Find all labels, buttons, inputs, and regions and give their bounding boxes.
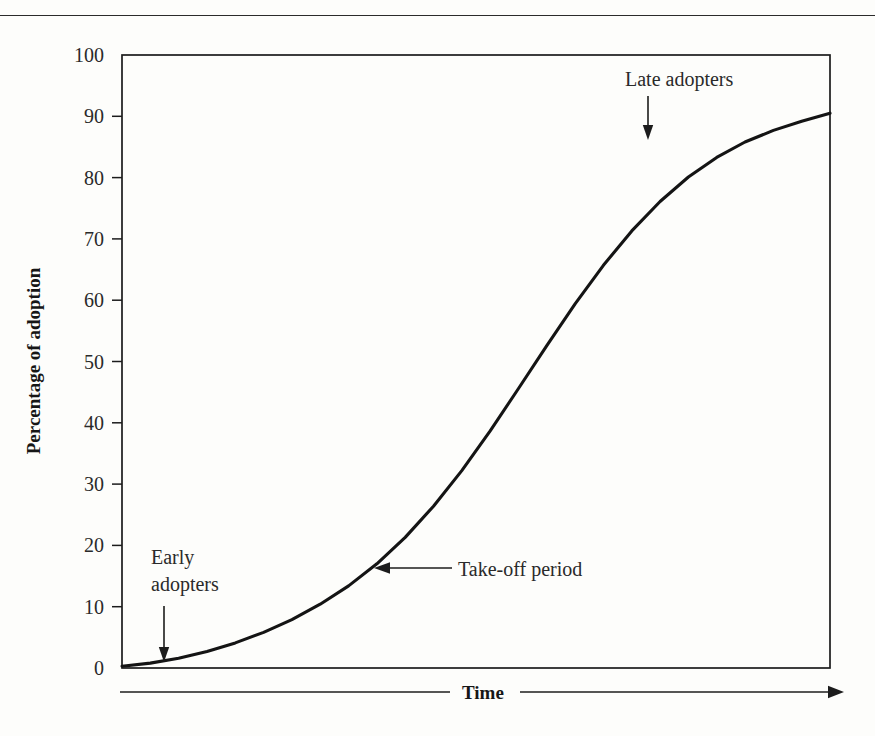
y-tick-label-90: 90 [84,105,104,127]
chart-figure: 100 90 80 70 60 50 40 30 20 10 0 Percent… [0,0,875,736]
anno-take-off-label: Take-off period [458,558,582,581]
time-arrow-head [828,686,844,698]
y-axis-tick-labels: 100 90 80 70 60 50 40 30 20 10 0 [74,44,104,679]
y-axis-title: Percentage of adoption [23,267,44,454]
adoption-s-curve-chart: 100 90 80 70 60 50 40 30 20 10 0 Percent… [0,0,875,736]
x-axis-title: Time [462,682,504,703]
y-tick-label-30: 30 [84,473,104,495]
y-axis-ticks [112,116,122,606]
y-tick-label-40: 40 [84,412,104,434]
y-tick-label-80: 80 [84,167,104,189]
adoption-curve [122,113,830,666]
anno-early-adopters-line1: Early [151,546,194,569]
figure-page: 100 90 80 70 60 50 40 30 20 10 0 Percent… [0,0,875,736]
x-axis-time-arrow: Time [120,682,844,703]
y-tick-label-100: 100 [74,44,104,66]
annotation-take-off-period: Take-off period [374,558,582,581]
y-tick-label-50: 50 [84,351,104,373]
anno-late-adopters-arrow-head [643,125,653,140]
y-tick-label-0: 0 [94,657,104,679]
annotation-early-adopters: Early adopters [151,546,219,662]
anno-early-adopters-line2: adopters [151,573,219,596]
anno-late-adopters-label: Late adopters [625,68,733,91]
y-tick-label-20: 20 [84,534,104,556]
y-tick-label-70: 70 [84,228,104,250]
annotation-late-adopters: Late adopters [625,68,733,140]
y-tick-label-60: 60 [84,289,104,311]
y-tick-label-10: 10 [84,596,104,618]
